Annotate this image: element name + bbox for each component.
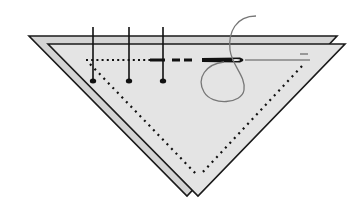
sewing-diagram <box>0 0 360 211</box>
